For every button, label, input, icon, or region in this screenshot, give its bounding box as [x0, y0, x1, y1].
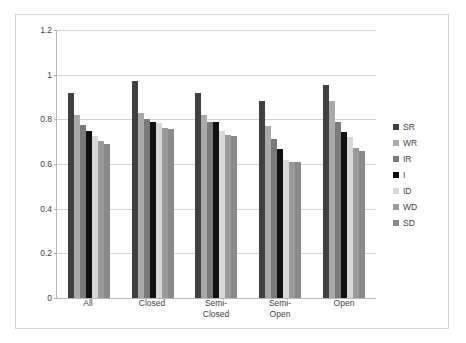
legend-label: I: [403, 170, 405, 180]
y-tick-label: 0.6: [40, 159, 52, 169]
chart-legend: SRWRIRIIDWDSD: [393, 119, 445, 231]
legend-item-sd[interactable]: SD: [393, 215, 445, 231]
bar-cluster: [323, 30, 365, 298]
y-tick-label: 0: [47, 293, 52, 303]
x-axis-label: All: [56, 298, 120, 320]
x-axis-labels: AllClosedSemi- ClosedSemi- OpenOpen: [56, 298, 376, 320]
bar-sd[interactable]: [359, 151, 365, 298]
legend-item-ir[interactable]: IR: [393, 151, 445, 167]
legend-item-wr[interactable]: WR: [393, 135, 445, 151]
bar-cluster: [259, 30, 301, 298]
y-tick-label: 1.2: [40, 25, 52, 35]
legend-swatch-icon: [393, 140, 399, 146]
legend-swatch-icon: [393, 172, 399, 178]
bar-group: [121, 30, 185, 298]
bar-group: [185, 30, 249, 298]
legend-swatch-icon: [393, 220, 399, 226]
bar-cluster: [68, 30, 110, 298]
legend-label: IR: [403, 154, 412, 164]
bar-group: [248, 30, 312, 298]
bar-sd[interactable]: [168, 129, 174, 298]
x-axis-label: Semi- Closed: [184, 298, 248, 320]
legend-label: SD: [403, 218, 415, 228]
bar-group: [312, 30, 376, 298]
plot-area: 00.20.40.60.811.2: [56, 30, 376, 298]
legend-item-wd[interactable]: WD: [393, 199, 445, 215]
legend-swatch-icon: [393, 124, 399, 130]
legend-label: WD: [403, 202, 417, 212]
legend-swatch-icon: [393, 156, 399, 162]
x-axis-label: Open: [312, 298, 376, 320]
legend-swatch-icon: [393, 188, 399, 194]
x-axis-label: Semi- Open: [248, 298, 312, 320]
legend-label: ID: [403, 186, 412, 196]
y-tick-label: 0.2: [40, 248, 52, 258]
x-axis-label: Closed: [120, 298, 184, 320]
bars-layer: [57, 30, 376, 298]
y-tick-label: 0.8: [40, 114, 52, 124]
bar-sd[interactable]: [104, 144, 110, 298]
bar-cluster: [195, 30, 237, 298]
bar-sd[interactable]: [295, 162, 301, 298]
y-tick-label: 0.4: [40, 204, 52, 214]
y-tick-label: 1: [47, 70, 52, 80]
legend-label: WR: [403, 138, 417, 148]
bar-cluster: [132, 30, 174, 298]
legend-item-id[interactable]: ID: [393, 183, 445, 199]
bar-sd[interactable]: [231, 136, 237, 298]
legend-label: SR: [403, 122, 415, 132]
legend-item-sr[interactable]: SR: [393, 119, 445, 135]
legend-swatch-icon: [393, 204, 399, 210]
bar-group: [57, 30, 121, 298]
chart-frame: 00.20.40.60.811.2 AllClosedSemi- ClosedS…: [15, 14, 449, 329]
legend-item-i[interactable]: I: [393, 167, 445, 183]
